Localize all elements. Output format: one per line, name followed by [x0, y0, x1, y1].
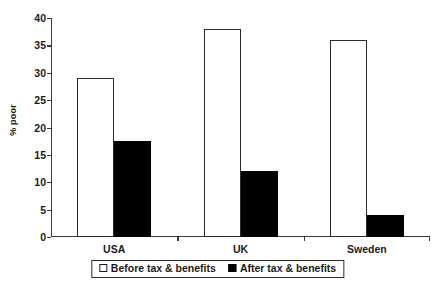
legend-label-before: Before tax & benefits: [111, 263, 216, 274]
bar-sweden-before: [330, 40, 367, 237]
y-tick-label: 5: [40, 204, 46, 215]
bar-uk-after: [241, 171, 278, 237]
y-axis-line: [51, 18, 52, 237]
y-tick-mark: [47, 128, 51, 129]
legend-entry-after[interactable]: After tax & benefits: [228, 263, 336, 274]
y-tick-label: 40: [34, 13, 46, 24]
y-tick-mark: [47, 155, 51, 156]
legend-entry-before[interactable]: Before tax & benefits: [99, 263, 216, 274]
plot-area: 0510152025303540: [51, 18, 430, 237]
legend-swatch-before-icon: [99, 264, 107, 272]
y-tick-label: 20: [34, 122, 46, 133]
chart-legend: Before tax & benefits After tax & benefi…: [91, 260, 344, 278]
y-tick-label: 15: [34, 150, 46, 161]
legend-swatch-after-icon: [228, 264, 236, 272]
bar-uk-before: [204, 29, 241, 237]
poverty-bar-chart: % poor 0510152025303540 USAUKSweden Befo…: [0, 0, 435, 287]
x-tick-mark: [429, 237, 430, 241]
x-tick-mark: [177, 237, 178, 241]
x-category-label-sweden: Sweden: [347, 243, 387, 255]
bar-sweden-after: [367, 215, 404, 237]
y-tick-label: 35: [34, 40, 46, 51]
y-axis-title-text: % poor: [8, 104, 18, 136]
y-tick-mark: [47, 210, 51, 211]
bar-usa-before: [77, 78, 114, 237]
y-tick-label: 30: [34, 68, 46, 79]
legend-label-after: After tax & benefits: [240, 263, 336, 274]
y-axis-title: % poor: [2, 0, 24, 240]
y-tick-label: 25: [34, 95, 46, 106]
bar-usa-after: [114, 141, 151, 237]
y-tick-mark: [47, 18, 51, 19]
y-tick-mark: [47, 45, 51, 46]
y-tick-mark: [47, 73, 51, 74]
y-tick-label: 0: [40, 232, 46, 243]
x-category-label-usa: USA: [103, 243, 125, 255]
y-tick-mark: [47, 100, 51, 101]
y-tick-label: 10: [34, 177, 46, 188]
y-tick-mark: [47, 182, 51, 183]
x-category-label-uk: UK: [233, 243, 248, 255]
x-tick-mark: [304, 237, 305, 241]
y-tick-mark: [47, 237, 51, 238]
